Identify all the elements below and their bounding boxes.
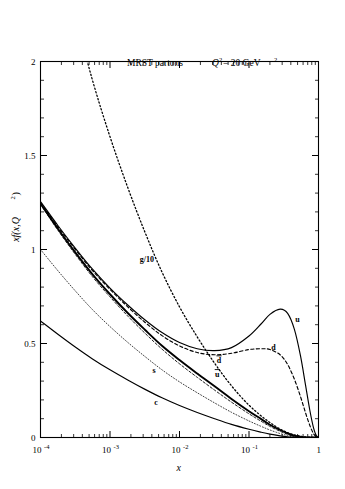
up-curve-label: u bbox=[295, 315, 300, 324]
plot-frame bbox=[41, 62, 319, 438]
svg-text:2: 2 bbox=[9, 196, 16, 199]
pdf-plot-figure: 10-410-310-210-11x00.511.52xf(x,Q2)MRST … bbox=[0, 0, 345, 489]
q-squared-value: = 20 GeV bbox=[223, 58, 261, 68]
y-tick-label: 1 bbox=[31, 245, 36, 255]
q-squared-exponent: 2 bbox=[219, 56, 222, 63]
x-tick-label: 10-2 bbox=[172, 443, 189, 455]
x-tick-label: 10-4 bbox=[33, 443, 51, 455]
svg-text:): ) bbox=[10, 192, 22, 195]
y-axis-label: xf(x,Q2) bbox=[9, 192, 22, 243]
model-annotation: MRST partons bbox=[127, 58, 183, 68]
curve-c bbox=[41, 321, 319, 438]
gev-exponent: 2 bbox=[274, 56, 277, 63]
y-tick-label: 0.5 bbox=[24, 339, 36, 349]
x-tick-label: 10-1 bbox=[241, 443, 258, 455]
down-curve-label: d bbox=[271, 343, 276, 352]
gluon-curve-label: g/10 bbox=[140, 255, 154, 264]
x-tick-label: 1 bbox=[317, 445, 322, 455]
strange-curve-label: s bbox=[152, 366, 155, 375]
svg-text:1: 1 bbox=[317, 445, 322, 455]
charm-curve-label: c bbox=[154, 398, 158, 407]
svg-text:-4: -4 bbox=[44, 443, 50, 450]
svg-text:-2: -2 bbox=[183, 443, 188, 450]
svg-text:10: 10 bbox=[241, 445, 251, 455]
x-axis-label: x bbox=[176, 462, 182, 473]
curve-ubar bbox=[41, 204, 319, 437]
y-tick-label: 2 bbox=[31, 57, 36, 67]
y-tick-label: 1.5 bbox=[24, 151, 36, 161]
svg-text:-3: -3 bbox=[114, 443, 119, 450]
svg-text:10: 10 bbox=[102, 445, 112, 455]
svg-text:10: 10 bbox=[172, 445, 182, 455]
curve-dbar bbox=[41, 203, 319, 437]
y-tick-label: 0 bbox=[31, 433, 36, 443]
parton-distribution-chart: 10-410-310-210-11x00.511.52xf(x,Q2)MRST … bbox=[0, 0, 345, 489]
curve-d bbox=[41, 203, 319, 438]
dbar-curve-label: d bbox=[217, 356, 222, 365]
curve-s bbox=[41, 250, 319, 438]
svg-text:10: 10 bbox=[33, 445, 43, 455]
q-squared-symbol: Q bbox=[212, 58, 219, 68]
svg-text:-1: -1 bbox=[253, 443, 258, 450]
x-tick-label: 10-3 bbox=[102, 443, 119, 455]
ubar-curve-label: u bbox=[215, 370, 220, 379]
svg-text:xf(x,Q: xf(x,Q bbox=[10, 216, 22, 242]
curve-u bbox=[41, 202, 319, 438]
